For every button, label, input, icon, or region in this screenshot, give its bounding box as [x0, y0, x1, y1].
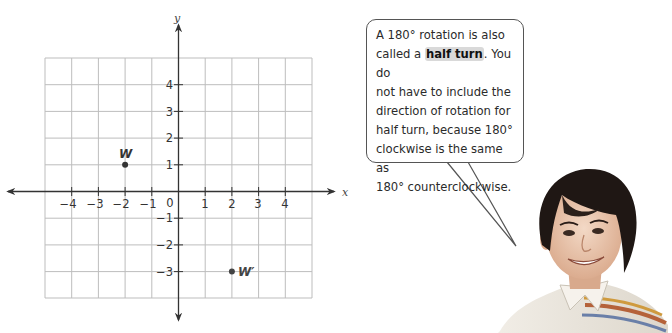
highlighted-term-half-turn: half turn — [425, 47, 484, 61]
y-axis-label: y — [173, 12, 181, 25]
x-axis-label: x — [342, 186, 349, 199]
x-tick-label: −4 — [60, 197, 77, 211]
origin-label: 0 — [166, 196, 173, 210]
x-tick-label: 2 — [228, 197, 235, 211]
x-tick-label: 4 — [281, 197, 288, 211]
x-tick-label: −3 — [87, 197, 104, 211]
bubble-text: called a — [376, 47, 425, 61]
point-w-prime — [229, 269, 235, 275]
bubble-line: A 180° rotation is also — [376, 26, 515, 45]
y-tick-label: −3 — [156, 265, 173, 279]
point-w-prime-label: W′ — [238, 265, 255, 279]
y-tick-label: −1 — [156, 211, 173, 225]
x-tick-label: −1 — [140, 197, 157, 211]
x-tick-label: 1 — [201, 197, 208, 211]
y-tick-label: −2 — [156, 238, 173, 252]
coordinate-plane: x y −4 −3 −2 −1 1 2 3 4 0 4 3 2 1 −1 −2 … — [0, 0, 360, 333]
bubble-line: direction of rotation for — [376, 102, 515, 121]
speech-bubble: A 180° rotation is also called a half tu… — [366, 19, 524, 163]
y-tick-label: 3 — [166, 105, 173, 119]
bubble-line: not have to include the — [376, 83, 515, 102]
x-tick-label: −2 — [113, 197, 130, 211]
bubble-line: called a half turn. You do — [376, 45, 515, 83]
y-tick-label: 4 — [166, 78, 173, 92]
bubble-line: half turn, because 180° — [376, 121, 515, 140]
student-character-illustration — [490, 155, 672, 333]
point-w — [122, 162, 128, 168]
x-tick-label: 3 — [254, 197, 261, 211]
point-w-label: W — [119, 147, 133, 161]
y-tick-label: 1 — [166, 158, 173, 172]
y-tick-label: 2 — [166, 131, 173, 145]
